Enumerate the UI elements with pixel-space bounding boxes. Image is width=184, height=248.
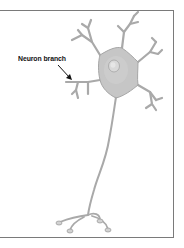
axon	[88, 97, 116, 215]
annotation-arrow	[58, 65, 72, 80]
neuron-branch-label: Neuron branch	[18, 54, 66, 63]
nucleolus	[111, 62, 116, 68]
neuron-illustration	[0, 0, 184, 248]
